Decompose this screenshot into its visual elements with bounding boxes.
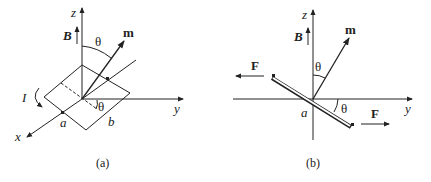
y-axis-label: y (172, 101, 180, 116)
bar-end-left (272, 74, 275, 77)
moment-label: m (123, 25, 134, 40)
panel-b: z y B m θ θ a F F (b) (233, 7, 412, 170)
magnetic-moment-arrow (82, 41, 124, 99)
bar-end-right (351, 123, 354, 126)
theta-label-top: θ (315, 59, 321, 74)
side-b-label: b (108, 114, 115, 129)
x-axis-label: x (14, 129, 21, 144)
b-field-label: B (293, 29, 303, 44)
point-marker-top (106, 77, 109, 80)
theta-arc-top (313, 75, 325, 78)
force-label-left: F (251, 58, 259, 73)
theta-label-top: θ (95, 34, 101, 49)
force-label-right: F (371, 106, 379, 121)
b-field-label: B (62, 28, 72, 43)
theta-label-bottom: θ (341, 101, 347, 116)
z-axis-label: z (70, 5, 76, 20)
theta-label-bottom: θ (98, 99, 104, 114)
current-arrow (35, 88, 42, 107)
figure-canvas: z y x B m θ θ I a b (a) (0, 0, 431, 182)
caption-b: (b) (306, 156, 320, 170)
panel-a: z y x B m θ θ I a b (a) (14, 5, 183, 170)
moment-label: m (345, 22, 356, 37)
y-axis-label: y (403, 101, 411, 116)
z-axis-label: z (301, 7, 307, 22)
caption-a: (a) (96, 156, 109, 170)
point-marker-a (61, 111, 64, 114)
dashed-line (61, 83, 97, 109)
side-a-label: a (301, 105, 308, 120)
loop-edge-bar-inner (273, 78, 350, 126)
current-label: I (21, 90, 27, 105)
current-loop (44, 65, 130, 130)
theta-arc-bottom (334, 99, 338, 112)
side-a-label: a (60, 115, 67, 130)
